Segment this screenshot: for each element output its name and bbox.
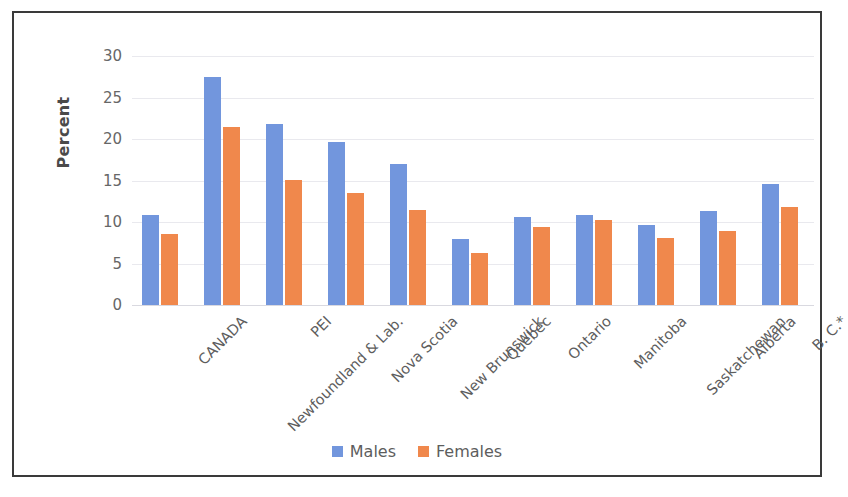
bar-group: [690, 56, 752, 305]
bar-males: [390, 164, 407, 305]
legend-item: Females: [418, 442, 502, 461]
bar-females: [161, 234, 178, 305]
bar-group: [504, 56, 566, 305]
bar-group: [194, 56, 256, 305]
bar-females: [657, 238, 674, 305]
bar-males: [576, 215, 593, 305]
x-axis-tick-label: Ontario: [565, 313, 615, 363]
y-axis-title: Percent: [54, 68, 73, 198]
chart-legend: MalesFemales: [14, 442, 820, 461]
x-axis-tick-label: CANADA: [195, 313, 250, 368]
x-axis-tick-labels: CANADANewfoundland & Lab.PEINova ScotiaN…: [132, 305, 814, 435]
x-axis-tick-label: PEI: [307, 313, 334, 340]
bar-group: [256, 56, 318, 305]
legend-label: Males: [350, 442, 396, 461]
bar-males: [762, 184, 779, 305]
bar-females: [471, 253, 488, 305]
bar-females: [347, 193, 364, 305]
bar-males: [452, 239, 469, 305]
chart-frame: Percent 302520151050 CANADANewfoundland …: [12, 11, 822, 477]
x-axis-tick-label: B. C.*: [809, 313, 848, 353]
bar-females: [533, 227, 550, 305]
bar-males: [266, 124, 283, 305]
bar-females: [409, 210, 426, 305]
legend-item: Males: [332, 442, 396, 461]
bar-females: [223, 127, 240, 305]
y-axis-tick-label: 0: [80, 296, 122, 314]
bar-females: [781, 207, 798, 305]
bar-males: [204, 77, 221, 305]
grouped-bar-chart: Percent 302520151050 CANADANewfoundland …: [14, 13, 820, 475]
bar-group: [318, 56, 380, 305]
y-axis-tick-label: 10: [80, 213, 122, 231]
legend-label: Females: [436, 442, 502, 461]
y-axis-tick-label: 25: [80, 89, 122, 107]
bar-males: [700, 211, 717, 305]
plot-area: [132, 56, 814, 305]
y-axis-tick-label: 5: [80, 255, 122, 273]
y-axis-tick-label: 20: [80, 130, 122, 148]
x-axis-tick-label: Manitoba: [631, 313, 690, 372]
legend-swatch-icon: [332, 446, 343, 457]
bar-females: [595, 220, 612, 305]
bar-males: [638, 225, 655, 306]
bar-group: [752, 56, 814, 305]
bar-females: [719, 231, 736, 305]
y-axis-tick-labels: 302520151050: [76, 56, 122, 305]
bar-females: [285, 180, 302, 305]
bar-males: [514, 217, 531, 305]
bar-males: [142, 215, 159, 305]
bar-group: [566, 56, 628, 305]
legend-swatch-icon: [418, 446, 429, 457]
y-axis-tick-label: 30: [80, 47, 122, 65]
bar-group: [442, 56, 504, 305]
bar-group: [132, 56, 194, 305]
bar-group: [380, 56, 442, 305]
bar-males: [328, 142, 345, 306]
y-axis-tick-label: 15: [80, 172, 122, 190]
bar-group: [628, 56, 690, 305]
